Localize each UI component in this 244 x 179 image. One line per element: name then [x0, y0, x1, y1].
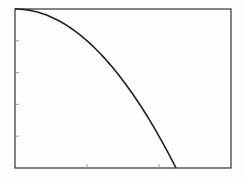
line-chart — [0, 0, 244, 179]
data-line — [15, 9, 176, 168]
plot-border — [15, 9, 231, 168]
plot-frame — [15, 9, 231, 168]
axis-ticks — [15, 41, 159, 168]
